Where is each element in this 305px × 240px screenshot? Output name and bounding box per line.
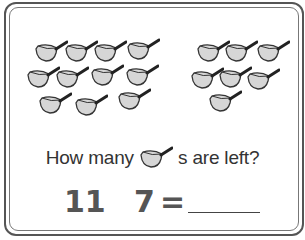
pot-icon [126,38,160,60]
pot-icon [93,40,127,62]
pot-icon [74,94,108,116]
pot-icon [246,68,280,90]
question-prefix: How many [46,147,134,168]
answer-blank[interactable] [188,212,260,213]
pot-icon [90,64,124,86]
pot-icon [125,64,159,86]
pot-icon [256,40,290,62]
pot-icon [117,88,151,110]
question-text: How many s are left? [0,146,305,169]
pot-icon [208,90,242,112]
pot-icon [224,40,258,62]
pot-icon [38,92,72,114]
question-suffix: s are left? [178,147,259,168]
pot-icon [55,66,89,88]
minuend: 11 [64,184,106,219]
subtrahend: 7 [134,184,155,219]
pot-icon [139,146,173,168]
pot-icon [34,40,68,62]
equals-sign: = [160,184,185,219]
